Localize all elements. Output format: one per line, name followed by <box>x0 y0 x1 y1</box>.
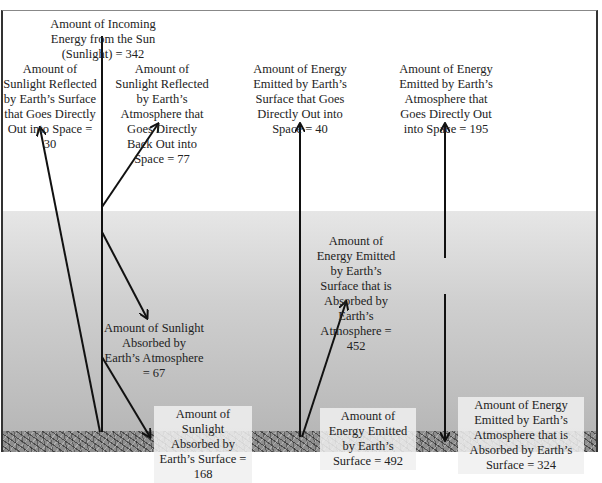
reflected-surface-arrow <box>40 128 100 432</box>
absorbed-atmosphere-label: Amount of Sunlight Absorbed by Earth’s A… <box>104 321 204 381</box>
reflected-surface-label: Amount of Sunlight Reflected by Earth’s … <box>2 62 98 152</box>
incoming-energy-label: Amount of Incoming Energy from the Sun (… <box>38 17 168 62</box>
surface-to-space-label: Amount of Energy Emitted by Earth’s Surf… <box>252 62 348 137</box>
reflected-atmosphere-label: Amount of Sunlight Reflected by Earth’s … <box>114 62 210 167</box>
absorbed-surface-label: Amount of Sunlight Absorbed by Earth’s S… <box>154 406 252 483</box>
absorbed-atmosphere-arrow <box>102 232 147 318</box>
atmosphere-to-space-label: Amount of Energy Emitted by Earth’s Atmo… <box>398 62 494 137</box>
surface-emitted-label: Amount of Energy Emitted by Earth’s Surf… <box>320 408 416 470</box>
atmosphere-to-surface-label: Amount of Energy Emitted by Earth’s Atmo… <box>458 397 584 474</box>
surface-to-atmosphere-label: Amount of Energy Emitted by Earth’s Surf… <box>310 234 402 354</box>
